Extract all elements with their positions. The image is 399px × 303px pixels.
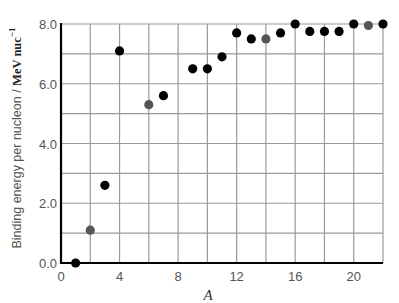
binding-energy-chart: 048121620 0.02.04.06.08.0 A Binding ener… <box>0 0 399 303</box>
y-tick-label: 6.0 <box>39 77 57 92</box>
x-tick-label: 0 <box>57 269 64 284</box>
data-point <box>378 19 387 28</box>
x-axis-label: A <box>202 287 213 303</box>
data-point <box>144 100 153 109</box>
x-tick-label: 8 <box>174 269 181 284</box>
x-tick-label: 20 <box>346 269 360 284</box>
y-axis-label-exponent: −1 <box>7 27 17 37</box>
data-point <box>247 34 256 43</box>
x-axis-ticks: 048121620 <box>57 269 361 284</box>
x-tick-label: 4 <box>116 269 123 284</box>
data-point <box>86 226 95 235</box>
data-point <box>232 28 241 37</box>
data-point <box>334 27 343 36</box>
data-point <box>203 64 212 73</box>
data-point <box>71 258 80 267</box>
y-axis-label-unit: MeV nuc <box>10 37 24 86</box>
x-tick-label: 16 <box>288 269 302 284</box>
data-point <box>305 27 314 36</box>
y-tick-label: 4.0 <box>39 137 57 152</box>
data-point <box>115 46 124 55</box>
x-tick-label: 12 <box>229 269 243 284</box>
y-axis-ticks: 0.02.04.06.08.0 <box>39 17 57 271</box>
svg-text:Binding energy per nucleon / M: Binding energy per nucleon / MeV nuc−1 <box>7 27 24 248</box>
y-axis-label-text: Binding energy per nucleon / <box>10 86 24 249</box>
y-tick-label: 2.0 <box>39 196 57 211</box>
y-axis-label: Binding energy per nucleon / MeV nuc−1 <box>7 27 24 248</box>
y-tick-label: 8.0 <box>39 17 57 32</box>
data-point <box>276 28 285 37</box>
y-tick-label: 0.0 <box>39 256 57 271</box>
data-point <box>159 91 168 100</box>
data-point <box>349 19 358 28</box>
data-point <box>291 19 300 28</box>
data-point <box>217 52 226 61</box>
data-point <box>188 64 197 73</box>
data-point <box>364 21 373 30</box>
data-point <box>261 34 270 43</box>
data-point <box>100 181 109 190</box>
data-point <box>320 27 329 36</box>
